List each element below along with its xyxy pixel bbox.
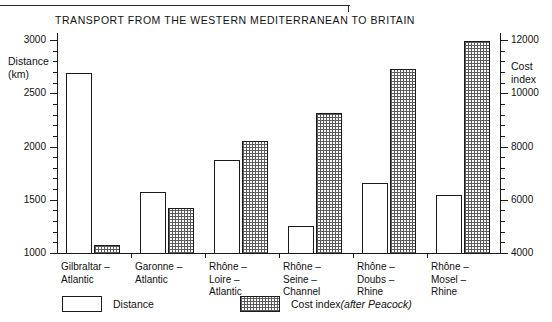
legend-swatch-cost-index — [240, 296, 280, 312]
y-axis-right-tick-label: 6000 — [511, 194, 533, 205]
legend-label-cost-index-source: (after Peacock) — [341, 298, 412, 310]
x-axis-category-label-line: Seine – — [283, 274, 321, 287]
x-axis-group-separator — [205, 253, 206, 258]
bar-cost-index — [168, 208, 194, 254]
legend-label-distance: Distance — [113, 298, 154, 310]
y-axis-right-tick-label: 12000 — [511, 34, 539, 45]
x-axis-category-label-line: Rhine — [431, 286, 469, 299]
y-axis-right-major-tick — [500, 40, 508, 41]
y-axis-right-major-tick — [500, 253, 508, 254]
bar-distance — [288, 226, 314, 254]
chart-figure: TRANSPORT FROM THE WESTERN MEDITERRANEAN… — [0, 0, 552, 322]
x-axis-category-label-line: Doubs – — [357, 274, 395, 287]
x-axis-category-label: Rhône –Doubs –Rhine — [357, 261, 395, 299]
x-axis-category-label: Garonne –Atlantic — [135, 261, 182, 286]
legend-swatch-distance — [62, 296, 102, 312]
x-axis-category-label-line: Loire – — [209, 274, 247, 287]
bar-distance — [436, 195, 462, 254]
y-axis-left-title-line2: (km) — [8, 68, 49, 81]
y-axis-left-tick-label: 1500 — [24, 194, 46, 205]
legend-label-cost-index: Cost index — [291, 298, 341, 310]
y-axis-left-title-line1: Distance — [8, 55, 49, 68]
x-axis-category-label-line: Garonne – — [135, 261, 182, 274]
chart-title: TRANSPORT FROM THE WESTERN MEDITERRANEAN… — [55, 14, 415, 26]
bar-cost-index — [390, 69, 416, 254]
y-axis-left-tick-label: 2000 — [24, 141, 46, 152]
legend-item-distance: Distance — [62, 296, 154, 312]
x-axis-category-label-line: Atlantic — [61, 274, 110, 287]
x-axis-category-label: Rhône –Seine –Channel — [283, 261, 321, 299]
top-rule-end-tick — [348, 5, 349, 12]
y-axis-right-major-tick — [500, 200, 508, 201]
y-axis-right-title: Cost index — [511, 60, 536, 85]
bar-plot-area — [57, 33, 501, 254]
bar-distance — [140, 192, 166, 254]
y-axis-right-major-tick — [500, 147, 508, 148]
y-axis-right-major-tick — [500, 93, 508, 94]
bar-cost-index — [464, 41, 490, 254]
bar-cost-index — [94, 245, 120, 254]
x-axis-category-label-line: Rhône – — [357, 261, 395, 274]
top-rule-divider — [0, 5, 350, 6]
y-axis-left-tick-label: 3000 — [24, 34, 46, 45]
x-axis-category-label-line: Rhône – — [209, 261, 247, 274]
y-axis-right-tick-label: 10000 — [511, 87, 539, 98]
x-axis-category-label-line: Gilbraltar – — [61, 261, 110, 274]
y-axis-right-tick-label: 4000 — [511, 247, 533, 258]
x-axis-group-separator — [353, 253, 354, 258]
y-axis-left-tick-label: 2500 — [24, 87, 46, 98]
y-axis-left-tick-label: 1000 — [24, 247, 46, 258]
y-axis-right-title-line2: index — [511, 73, 536, 86]
x-axis-category-label-line: Rhône – — [283, 261, 321, 274]
x-axis-category-label-line: Mosel – — [431, 274, 469, 287]
x-axis-category-label: Rhône –Mosel –Rhine — [431, 261, 469, 299]
x-axis-group-separator — [427, 253, 428, 258]
x-axis-category-label: Gilbraltar –Atlantic — [61, 261, 110, 286]
x-axis-category-label-line: Rhône – — [431, 261, 469, 274]
x-axis-group-separator — [131, 253, 132, 258]
x-axis-category-label: Rhône –Loire –Atlantic — [209, 261, 247, 299]
bar-cost-index — [242, 141, 268, 254]
bar-distance — [362, 183, 388, 254]
legend-item-cost-index: Cost index (after Peacock) — [240, 296, 412, 312]
bar-cost-index — [316, 113, 342, 254]
bar-distance — [214, 160, 240, 254]
y-axis-left-title: Distance (km) — [8, 55, 49, 80]
x-axis-group-separator — [279, 253, 280, 258]
bar-distance — [66, 73, 92, 254]
y-axis-right-tick-label: 8000 — [511, 141, 533, 152]
y-axis-right-title-line1: Cost — [511, 60, 536, 73]
x-axis-category-label-line: Atlantic — [135, 274, 182, 287]
